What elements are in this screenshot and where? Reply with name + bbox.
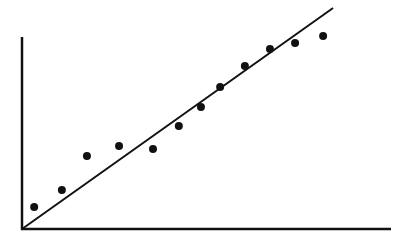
data-point <box>83 152 91 160</box>
data-point <box>58 186 66 194</box>
data-point <box>241 62 249 70</box>
data-point <box>30 203 38 211</box>
trend-line <box>22 8 333 229</box>
data-point <box>216 83 224 91</box>
data-point <box>115 142 123 150</box>
data-point <box>291 39 299 47</box>
data-point <box>266 45 274 53</box>
data-point <box>319 32 327 40</box>
scatter-chart <box>0 0 410 242</box>
data-point <box>149 145 157 153</box>
data-points <box>30 32 327 211</box>
axes <box>21 37 391 230</box>
data-point <box>175 122 183 130</box>
data-point <box>197 103 205 111</box>
